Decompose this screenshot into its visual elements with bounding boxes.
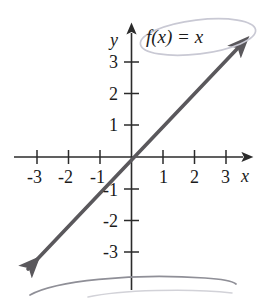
x-axis-name-label: x [240, 166, 249, 186]
x-tick-label-pos1: 1 [159, 167, 168, 187]
y-tick-label-neg3: -3 [103, 242, 118, 262]
x-tick-label-pos2: 2 [190, 167, 199, 187]
y-axis-name-label: y [108, 30, 118, 50]
y-tick-label-pos1: 1 [109, 115, 118, 135]
graph-canvas: y x f(x) = x -3 -2 -1 1 2 3 3 2 1 -1 -2 … [0, 0, 259, 298]
function-line-group [28, 49, 237, 269]
function-line-fx-equals-x [28, 49, 237, 269]
function-label-text: f(x) = x [146, 26, 204, 48]
y-tick-label-pos3: 3 [109, 52, 118, 72]
handdrawn-annotations [30, 13, 258, 297]
x-tick-label-pos3: 3 [221, 167, 230, 187]
y-tick-label-neg1: -1 [103, 180, 118, 200]
annotation-underline-sweep-faint [88, 290, 232, 297]
y-tick-label-pos2: 2 [109, 84, 118, 104]
y-tick-label-neg2: -2 [103, 211, 118, 231]
x-tick-label-neg3: -3 [27, 167, 42, 187]
math-graph-figure: · · [0, 0, 259, 298]
x-tick-label-neg2: -2 [58, 167, 73, 187]
